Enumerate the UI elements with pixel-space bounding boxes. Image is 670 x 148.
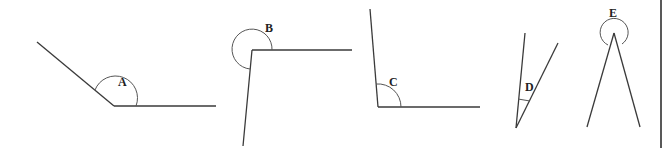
angle-d-label: D <box>525 80 534 94</box>
angle-a-label: A <box>118 75 127 89</box>
angle-a: A <box>37 42 216 106</box>
angle-e: E <box>587 6 640 127</box>
angle-e-label: E <box>609 6 617 20</box>
angle-d: D <box>516 33 558 128</box>
angles-diagram: A B C D E <box>0 0 670 148</box>
angle-c: C <box>370 9 480 107</box>
angle-b-label: B <box>265 21 273 35</box>
angle-b: B <box>232 21 352 146</box>
angle-c-label: C <box>389 75 398 89</box>
